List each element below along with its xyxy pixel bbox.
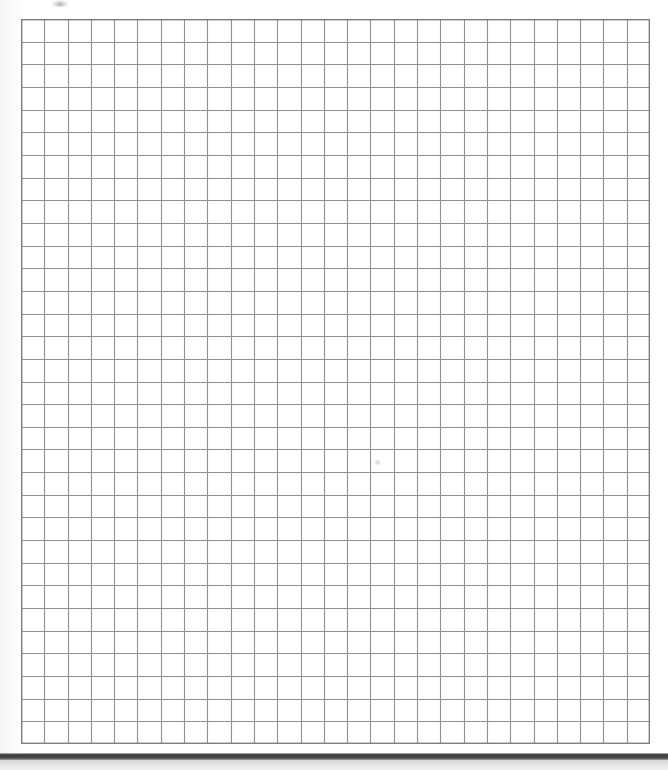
page-edge-shadow (0, 760, 668, 770)
graph-paper-grid (21, 19, 650, 744)
scan-smudge-top-icon (52, 0, 68, 7)
page-edge-dark-bar (0, 753, 668, 760)
grid-canvas (21, 19, 650, 744)
scanned-page (0, 0, 668, 770)
